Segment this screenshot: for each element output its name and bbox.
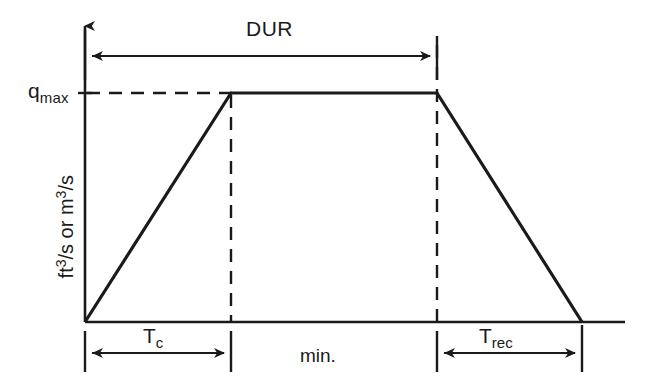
dur-label-text: DUR <box>246 17 293 40</box>
y-axis-label: ft3/s or m3/s <box>54 142 75 312</box>
tc-label-subscript: c <box>156 334 164 351</box>
y-axis-label-ft: ft <box>55 267 77 278</box>
y-axis-label-suffix: /s <box>55 175 77 191</box>
trec-label-base: T <box>479 324 492 347</box>
tc-label-base: T <box>143 324 156 347</box>
y-axis-label-middle: /s or m <box>55 198 77 259</box>
trec-label-subscript: rec <box>492 334 513 351</box>
qmax-label-subscript: max <box>40 89 69 106</box>
y-axis-label-exponent-2: 3 <box>53 191 69 199</box>
y-axis-label-exponent-1: 3 <box>53 260 69 268</box>
qmax-label-base: q <box>28 79 40 102</box>
x-axis-units-label: min. <box>300 346 336 365</box>
hydrograph-canvas <box>0 0 659 381</box>
trec-label: Trec <box>479 325 513 350</box>
dur-label: DUR <box>246 18 293 39</box>
hydrograph-figure: DUR qmax ft3/s or m3/s Tc Trec min. <box>0 0 659 381</box>
qmax-label: qmax <box>28 80 69 105</box>
hydrograph-curve <box>85 93 582 322</box>
tc-label: Tc <box>143 325 163 350</box>
x-axis-units-text: min. <box>300 345 336 366</box>
